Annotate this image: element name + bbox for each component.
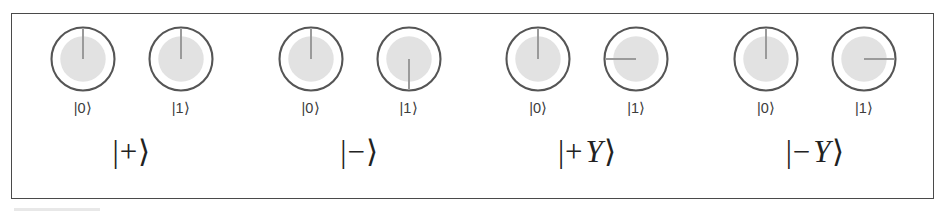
ket-bar: | xyxy=(786,134,793,169)
basis-state-label: |1⟩ xyxy=(627,101,645,116)
amplitude-dial-icon xyxy=(825,22,903,100)
state-group-minus-state: |0⟩|1⟩|−⟩ xyxy=(255,14,465,167)
ket-close-bracket: ⟩ xyxy=(366,134,379,169)
amplitude-dial-cell[interactable]: |1⟩ xyxy=(141,22,221,116)
state-sign: + xyxy=(565,134,583,169)
state-name-label: |−Y⟩ xyxy=(786,136,845,167)
dial-pair: |0⟩|1⟩ xyxy=(726,22,904,116)
scan-artifact xyxy=(14,208,100,211)
state-name-label: |+Y⟩ xyxy=(558,136,617,167)
amplitude-dial-cell[interactable]: |0⟩ xyxy=(43,22,123,116)
basis-state-label: |1⟩ xyxy=(172,101,190,116)
amplitude-dial-icon xyxy=(142,22,220,100)
ket-close-bracket: ⟩ xyxy=(604,134,617,169)
amplitude-dial-cell[interactable]: |0⟩ xyxy=(271,22,351,116)
ket-bar: | xyxy=(113,134,120,169)
amplitude-dial-cell[interactable]: |1⟩ xyxy=(824,22,904,116)
dial-pair: |0⟩|1⟩ xyxy=(271,22,449,116)
ket-close-bracket: ⟩ xyxy=(138,134,151,169)
dial-pair: |0⟩|1⟩ xyxy=(498,22,676,116)
figure-border-frame: |0⟩|1⟩|+⟩|0⟩|1⟩|−⟩|0⟩|1⟩|+Y⟩|0⟩|1⟩|−Y⟩ xyxy=(11,13,934,199)
amplitude-dial-cell[interactable]: |1⟩ xyxy=(369,22,449,116)
amplitude-dial-icon xyxy=(44,22,122,100)
basis-state-label: |1⟩ xyxy=(399,101,417,116)
state-group-plus-state: |0⟩|1⟩|+⟩ xyxy=(27,14,237,167)
dial-pair: |0⟩|1⟩ xyxy=(43,22,221,116)
amplitude-dial-icon xyxy=(370,22,448,100)
state-name-label: |+⟩ xyxy=(113,136,152,167)
state-sign: − xyxy=(347,134,365,169)
basis-state-label: |0⟩ xyxy=(74,101,92,116)
figure-root: |0⟩|1⟩|+⟩|0⟩|1⟩|−⟩|0⟩|1⟩|+Y⟩|0⟩|1⟩|−Y⟩ xyxy=(0,0,948,215)
basis-state-label: |1⟩ xyxy=(855,101,873,116)
amplitude-dial-cell[interactable]: |0⟩ xyxy=(498,22,578,116)
basis-state-label: |0⟩ xyxy=(757,101,775,116)
amplitude-dial-cell[interactable]: |1⟩ xyxy=(596,22,676,116)
state-group-plus-y-state: |0⟩|1⟩|+Y⟩ xyxy=(482,14,692,167)
amplitude-dial-icon xyxy=(272,22,350,100)
basis-state-label: |0⟩ xyxy=(301,101,319,116)
state-symbol: Y xyxy=(584,134,604,169)
state-group-minus-y-state: |0⟩|1⟩|−Y⟩ xyxy=(710,14,920,167)
state-sign: + xyxy=(120,134,138,169)
state-name-label: |−⟩ xyxy=(340,136,379,167)
state-symbol: Y xyxy=(811,134,831,169)
amplitude-dial-icon xyxy=(727,22,805,100)
amplitude-dial-cell[interactable]: |0⟩ xyxy=(726,22,806,116)
state-groups-row: |0⟩|1⟩|+⟩|0⟩|1⟩|−⟩|0⟩|1⟩|+Y⟩|0⟩|1⟩|−Y⟩ xyxy=(12,14,935,200)
amplitude-dial-icon xyxy=(597,22,675,100)
ket-close-bracket: ⟩ xyxy=(832,134,845,169)
state-sign: − xyxy=(793,134,811,169)
amplitude-dial-icon xyxy=(499,22,577,100)
basis-state-label: |0⟩ xyxy=(529,101,547,116)
